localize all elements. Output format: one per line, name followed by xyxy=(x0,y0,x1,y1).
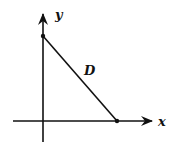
x-axis-label: x xyxy=(157,114,166,129)
y-intercept-point xyxy=(41,34,45,38)
boundary-segment xyxy=(43,36,117,121)
y-axis xyxy=(38,13,48,142)
x-intercept-point xyxy=(115,119,119,123)
x-axis xyxy=(13,116,153,126)
region-label: D xyxy=(83,63,96,78)
diagram-canvas: y x D xyxy=(0,0,174,156)
y-axis-label: y xyxy=(54,7,64,22)
